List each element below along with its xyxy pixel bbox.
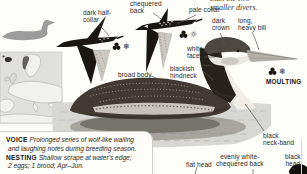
voice-line-2: and laughing notes during breeding seaso…: [6, 145, 147, 154]
nesting-line-2: 2 eggs; 1 brood; Apr–Jun.: [6, 162, 147, 171]
snowflake-icon: ❄: [279, 68, 286, 76]
label-black-neck-band: black neck-band: [263, 132, 294, 146]
diver-silhouette: [2, 20, 55, 40]
season-icons-moulting: ❄: [268, 67, 286, 76]
flying-diver-summer: [135, 8, 203, 72]
field-guide-page: than the two smaller divers. dark half- …: [0, 0, 307, 174]
label-flat-head: flat head: [186, 161, 212, 168]
label-dark-half-collar: dark half- collar: [83, 9, 111, 23]
label-pale-collar: pale collar: [189, 6, 220, 13]
sun-icon: ☼: [190, 31, 197, 39]
nesting-heading: NESTING: [6, 154, 37, 161]
intro-text: than the two smaller divers.: [210, 0, 306, 12]
nesting-line-1: NESTINGShallow scrape at water's edge;: [6, 154, 147, 163]
bird-crown: [204, 37, 251, 54]
voice-heading: VOICE: [6, 136, 28, 143]
plumage-trefoil-icon: [112, 42, 121, 51]
label-blackish-hindneck: blackish hindneck: [170, 65, 197, 79]
label-moulting: MOULTING: [266, 78, 302, 85]
intro-line: smaller divers.: [210, 4, 306, 13]
label-broad-body: broad body: [118, 71, 152, 78]
label-chequered-back: chequered back: [130, 0, 162, 14]
bird-eye: [237, 50, 240, 53]
voice-line-1: VOICEProlonged series of wolf-like waili…: [6, 136, 147, 145]
bird-bill: [247, 50, 299, 62]
plumage-trefoil-icon: [268, 67, 277, 76]
label-black-head: black head: [285, 153, 301, 167]
facts-panel: VOICEProlonged series of wolf-like waili…: [0, 131, 153, 174]
label-evenly-white-chequered-back: evenly white- chequered back: [216, 153, 264, 167]
label-white-face: white face: [187, 45, 203, 59]
snowflake-icon: ❄: [123, 43, 130, 51]
plumage-trefoil-icon: [179, 30, 188, 39]
page-edge-divider: [301, 140, 302, 174]
season-icons-summer-bird: ☼: [179, 30, 197, 39]
label-long-heavy-bill: long, heavy bill: [238, 17, 266, 31]
season-icons-winter-bird: ❄: [112, 42, 130, 51]
label-dark-crown: dark crown: [212, 17, 230, 31]
